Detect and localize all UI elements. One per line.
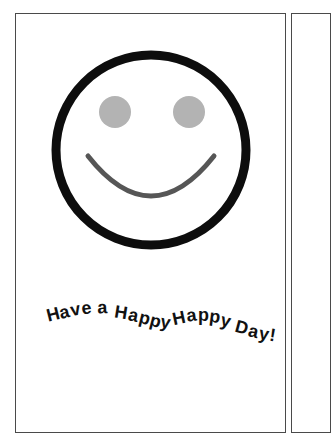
greeting-glyph-14: a [185, 304, 199, 325]
smiley-face-outline [56, 55, 246, 245]
card-front-panel[interactable]: HaveaHappyHappyDay! [15, 13, 286, 433]
card-back-panel[interactable] [291, 13, 331, 433]
right-eye [173, 96, 205, 128]
greeting-glyph-15: p [198, 305, 209, 325]
greeting-glyph-5: a [97, 297, 109, 317]
greeting-text: HaveaHappyHappyDay! [16, 284, 285, 354]
left-eye [99, 96, 131, 128]
smiley-face-illustration [44, 43, 258, 257]
greeting-glyph-group: HaveaHappyHappyDay! [44, 297, 277, 345]
greeting-glyph-3: e [80, 297, 93, 318]
